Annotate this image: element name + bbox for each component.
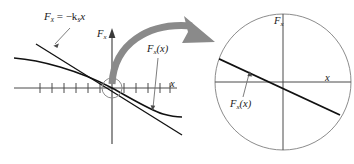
inset-fx-axis-label-sub: x — [280, 20, 283, 27]
left-fx-axis-label-sub: x — [103, 33, 106, 40]
actual-force-curve-label: Fx(x) — [147, 44, 168, 55]
left-fx-axis-arrowhead — [109, 28, 116, 38]
tangent-label-leader-line — [55, 28, 70, 44]
left-fx-axis-label: Fx — [97, 29, 107, 40]
tangent-label-tail: x — [80, 10, 85, 22]
tangent-label-eq: = −k — [54, 10, 77, 22]
physics-figure: Fx = −ksx Fx Fx(x) x Fx x Fx(x) — [0, 0, 354, 164]
figure-canvas — [0, 0, 354, 164]
magnify-arrow-head — [182, 16, 215, 43]
left-x-axis-label: x — [170, 79, 175, 90]
fxx-left-label-tail: (x) — [157, 43, 169, 54]
fxx-left-label-leader-line — [153, 58, 158, 108]
tangent-label-leader-arrow — [53, 44, 59, 48]
tangent-label-f: F — [44, 10, 51, 22]
tangent-equation-label: Fx = −ksx — [44, 11, 85, 24]
inset-plot-group — [213, 12, 353, 152]
inset-force-curve-label: Fx(x) — [230, 99, 251, 110]
fxx-inset-label-tail: (x) — [240, 98, 252, 109]
inset-x-axis-label: x — [325, 73, 330, 84]
fxx-inset-label-leader-line — [243, 74, 249, 97]
inset-fx-axis-label: Fx — [274, 16, 284, 27]
